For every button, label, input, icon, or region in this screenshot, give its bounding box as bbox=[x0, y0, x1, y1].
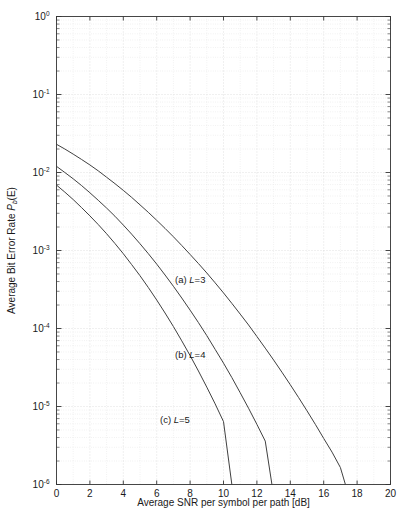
x-tick-label: 4 bbox=[121, 488, 127, 499]
annotation-b-L4: (b) L=4 bbox=[175, 349, 205, 360]
x-tick-label: 16 bbox=[318, 488, 330, 499]
bit-error-rate-chart: 0246810121416182010010-110-210-310-410-5… bbox=[0, 0, 407, 531]
x-axis-title: Average SNR per symbol per path [dB] bbox=[137, 497, 310, 508]
y-axis-title: Average Bit Error Rate Pb(E) bbox=[6, 187, 18, 314]
figure-container: 0246810121416182010010-110-210-310-410-5… bbox=[0, 0, 407, 531]
chart-background bbox=[0, 0, 407, 531]
x-tick-label: 2 bbox=[87, 488, 93, 499]
x-tick-label: 18 bbox=[352, 488, 364, 499]
annotation-c-L5: (c) L=5 bbox=[160, 414, 190, 425]
annotation-a-L3: (a) L=3 bbox=[175, 274, 205, 285]
x-tick-label: 20 bbox=[385, 488, 397, 499]
x-tick-label: 0 bbox=[54, 488, 60, 499]
